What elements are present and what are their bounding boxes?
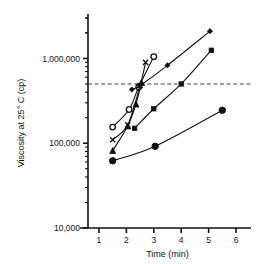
data-point-small-square <box>132 126 136 130</box>
x-tick-label: 5 <box>206 235 211 245</box>
data-point-open-circle <box>126 107 132 113</box>
series-line-series-filled-circle-lower <box>113 110 223 161</box>
x-tick-label: 6 <box>234 235 239 245</box>
viscosity-vs-time-chart: 10,000100,0001,000,000123456Time (min)Vi… <box>0 0 257 264</box>
series-line-series-open-circle <box>113 57 154 127</box>
data-point-open-circle <box>151 54 157 60</box>
y-tick-label: 1,000,000 <box>42 54 80 64</box>
y-tick-label: 100,000 <box>49 138 80 148</box>
data-point-open-circle <box>110 124 116 130</box>
x-axis-title: Time (min) <box>146 249 189 259</box>
y-tick-label: 10,000 <box>54 223 80 233</box>
data-point-filled-circle <box>109 158 115 164</box>
data-point-filled-circle <box>219 107 225 113</box>
chart-figure: 10,000100,0001,000,000123456Time (min)Vi… <box>0 0 257 264</box>
series-line-series-filled-triangle <box>113 83 142 151</box>
x-tick-label: 3 <box>151 235 156 245</box>
x-tick-label: 2 <box>124 235 129 245</box>
data-point-filled-circle <box>152 143 158 149</box>
data-point-small-square <box>179 82 183 86</box>
data-point-filled-triangle <box>125 123 131 129</box>
x-tick-label: 1 <box>97 235 102 245</box>
y-axis-title: Viscosity at 25° C (cp) <box>16 79 26 167</box>
data-point-filled-triangle <box>133 101 139 107</box>
x-tick-label: 4 <box>179 235 184 245</box>
data-point-small-square <box>152 107 156 111</box>
data-point-filled-diamond <box>129 87 134 92</box>
data-point-small-square <box>209 48 213 52</box>
data-point-filled-triangle <box>110 148 116 154</box>
